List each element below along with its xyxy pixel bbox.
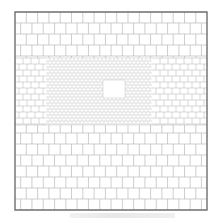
- wall-opening: [103, 80, 125, 98]
- mesh-lines: [15, 12, 207, 210]
- caption-text: [70, 213, 175, 218]
- brick-mesh-diagram: [0, 0, 220, 223]
